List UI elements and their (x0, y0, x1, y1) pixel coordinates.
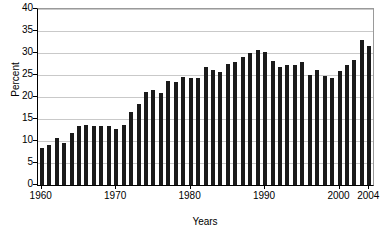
bar (47, 145, 51, 185)
y-axis-tick-label: 35 (9, 25, 33, 35)
bar (278, 67, 282, 185)
bar (181, 77, 185, 185)
bar (62, 143, 66, 185)
bar (233, 62, 237, 185)
bar (166, 81, 170, 185)
bar (256, 50, 260, 185)
y-axis-tick-mark (33, 118, 37, 119)
x-axis-tick-mark (115, 185, 116, 189)
y-axis-tick-label: 5 (9, 157, 33, 167)
bar (352, 60, 356, 185)
bar (315, 70, 319, 185)
y-axis-tick-mark (33, 52, 37, 53)
bar (226, 64, 230, 185)
bar (129, 112, 133, 185)
bar (271, 61, 275, 185)
bar (55, 138, 59, 185)
bar (189, 78, 193, 185)
y-axis-tick-mark (33, 96, 37, 97)
y-axis-tick-label: 40 (9, 3, 33, 13)
bar (77, 126, 81, 185)
bar (70, 133, 74, 185)
x-axis-tick-mark (368, 185, 369, 189)
y-axis-tick-mark (33, 30, 37, 31)
x-axis-tick-mark (41, 185, 42, 189)
x-axis-tick-label: 1980 (170, 190, 210, 201)
bar (241, 57, 245, 185)
bar (293, 65, 297, 185)
x-axis-tick-label: 1960 (21, 190, 61, 201)
bar (367, 46, 371, 185)
bar (137, 104, 141, 185)
x-axis-tick-mark (339, 185, 340, 189)
bar (338, 71, 342, 185)
x-axis: 196019701980199020002004 (37, 185, 373, 215)
y-axis-tick-label: 20 (9, 91, 33, 101)
y-axis-tick-label: 0 (9, 179, 33, 189)
bar (159, 93, 163, 185)
y-axis-tick-label: 30 (9, 47, 33, 57)
x-axis-tick-label: 1990 (244, 190, 284, 201)
bar (211, 70, 215, 185)
bar-series (38, 9, 373, 185)
bar (92, 126, 96, 185)
bar (114, 129, 118, 185)
bar (144, 92, 148, 185)
bar (345, 65, 349, 185)
bar-chart-figure: Percent 0510152025303540 196019701980199… (0, 0, 383, 238)
y-axis-tick-mark (33, 162, 37, 163)
y-axis-tick-mark (33, 8, 37, 9)
bar (360, 40, 364, 185)
bar (204, 67, 208, 185)
y-axis-tick-mark (33, 184, 37, 185)
plot-area (37, 8, 374, 186)
bar (285, 65, 289, 185)
y-axis-tick-label: 25 (9, 69, 33, 79)
bar (174, 82, 178, 185)
bar (122, 125, 126, 185)
y-axis-tick-label: 15 (9, 113, 33, 123)
y-axis-tick-label: 10 (9, 135, 33, 145)
bar (40, 148, 44, 185)
y-axis-tick-mark (33, 74, 37, 75)
bar (84, 125, 88, 185)
bar (218, 72, 222, 185)
x-axis-title: Years (37, 216, 373, 227)
bar (330, 78, 334, 185)
x-axis-tick-label: 1970 (95, 190, 135, 201)
x-axis-tick-label: 2004 (348, 190, 383, 201)
bar (151, 90, 155, 185)
bar (107, 126, 111, 185)
y-axis: Percent 0510152025303540 (0, 0, 33, 238)
x-axis-tick-mark (264, 185, 265, 189)
bar (323, 76, 327, 185)
y-axis-tick-mark (33, 140, 37, 141)
bar (263, 52, 267, 185)
bar (308, 75, 312, 185)
bar (196, 78, 200, 185)
x-axis-tick-mark (190, 185, 191, 189)
bar (300, 62, 304, 185)
bar (99, 126, 103, 185)
bar (248, 53, 252, 185)
